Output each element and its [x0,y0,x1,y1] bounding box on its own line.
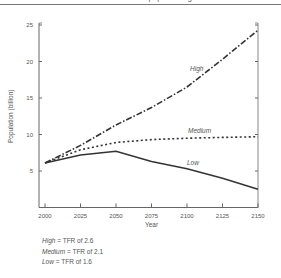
series-line-high [45,30,258,163]
y-tick-label: 15 [26,95,33,101]
series-label-medium: Medium [188,127,212,134]
legend-row-low: Low = TFR of 1.6 [42,257,103,268]
y-tick-label: 20 [26,59,33,65]
x-tick-label: 2075 [145,213,159,219]
series-label-high: High [190,65,204,73]
x-tick-label: 2100 [180,213,194,219]
y-tick-label: 10 [26,132,33,138]
legend: High = TFR of 2.6 Medium = TFR of 2.1 Lo… [42,236,103,268]
y-tick-label: 25 [26,22,33,28]
y-tick-label: 5 [30,168,34,174]
series-line-medium [45,137,258,163]
legend-row-medium: Medium = TFR of 2.1 [42,247,103,258]
x-tick-label: 2125 [216,213,230,219]
x-tick-label: 2050 [109,213,123,219]
x-tick-label: 2000 [38,213,52,219]
x-axis-title: Year [145,221,159,228]
chart-series [45,30,258,189]
y-axis-title: Population (billion) [7,90,15,143]
series-line-low [45,151,258,189]
series-label-low: Low [187,159,200,166]
x-tick-label: 2025 [74,213,88,219]
chart-labels: HighMediumLow [187,65,212,166]
x-tick-label: 2150 [251,213,265,219]
population-chart: 5101520252000202520502075210021252150Yea… [0,0,281,236]
legend-row-high: High = TFR of 2.6 [42,236,103,247]
chart-axes: 5101520252000202520502075210021252150Yea… [7,22,265,228]
